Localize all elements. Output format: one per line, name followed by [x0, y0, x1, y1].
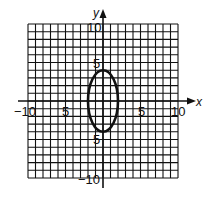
y-tick-pos5: 5: [93, 56, 100, 71]
y-axis-arrow-icon: [100, 9, 107, 18]
x-tick-pos10: 10: [171, 104, 185, 119]
y-tick-pos10: 10: [87, 20, 101, 35]
x-axis-arrow-icon: [187, 98, 196, 105]
y-axis-label: y: [92, 6, 100, 20]
x-tick-neg5: 5: [62, 104, 69, 119]
y-tick-neg10: −10: [78, 172, 100, 187]
x-axis-label: x: [195, 95, 203, 109]
coordinate-plane: x y −10 5 5 10 10 5 5 −10: [0, 0, 210, 199]
axes: [18, 9, 196, 188]
x-tick-pos5: 5: [138, 104, 145, 119]
y-tick-neg5: 5: [93, 132, 100, 147]
x-tick-neg10: −10: [14, 104, 36, 119]
